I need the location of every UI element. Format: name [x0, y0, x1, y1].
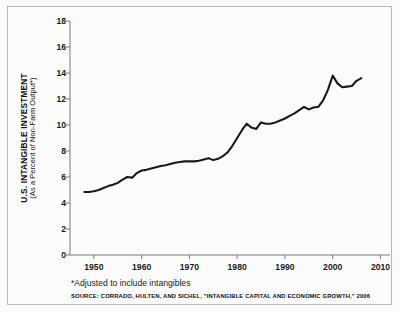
x-tick-label-1960: 1960 [122, 262, 162, 272]
x-tick-label-2010: 2010 [360, 262, 400, 272]
y-tick-label-18: 18 [40, 16, 66, 26]
chart-svg [70, 21, 390, 255]
y-tick-label-0: 0 [40, 250, 66, 260]
y-tick-label-16: 16 [40, 42, 66, 52]
y-tick-label-6: 6 [40, 172, 66, 182]
y-tick-label-4: 4 [40, 198, 66, 208]
x-tick-label-1950: 1950 [74, 262, 114, 272]
source-text: SOURCE: CORRADO, HULTEN, AND SICHEL, "IN… [71, 293, 370, 299]
x-tick-label-1970: 1970 [169, 262, 209, 272]
y-tick-label-8: 8 [40, 146, 66, 156]
y-tick-label-2: 2 [40, 224, 66, 234]
x-tick-label-1990: 1990 [265, 262, 305, 272]
plot-area [70, 21, 390, 255]
x-tick-label-2000: 2000 [313, 262, 353, 272]
y-axis-title-sub: (As a Percent of Non-Farm Output*) [30, 73, 38, 203]
data-series-line [84, 76, 361, 192]
y-tick-label-10: 10 [40, 120, 66, 130]
axis-lines [70, 21, 390, 255]
x-tick-label-1980: 1980 [217, 262, 257, 272]
x-axis-tick-labels: 1950196019701980199020002010 [0, 262, 400, 276]
chart-figure: U.S. INTANGIBLE INVESTMENT (As a Percent… [0, 0, 400, 312]
y-tick-label-12: 12 [40, 94, 66, 104]
footnote-text: *Adjusted to include intangibles [71, 278, 190, 288]
y-tick-label-14: 14 [40, 68, 66, 78]
